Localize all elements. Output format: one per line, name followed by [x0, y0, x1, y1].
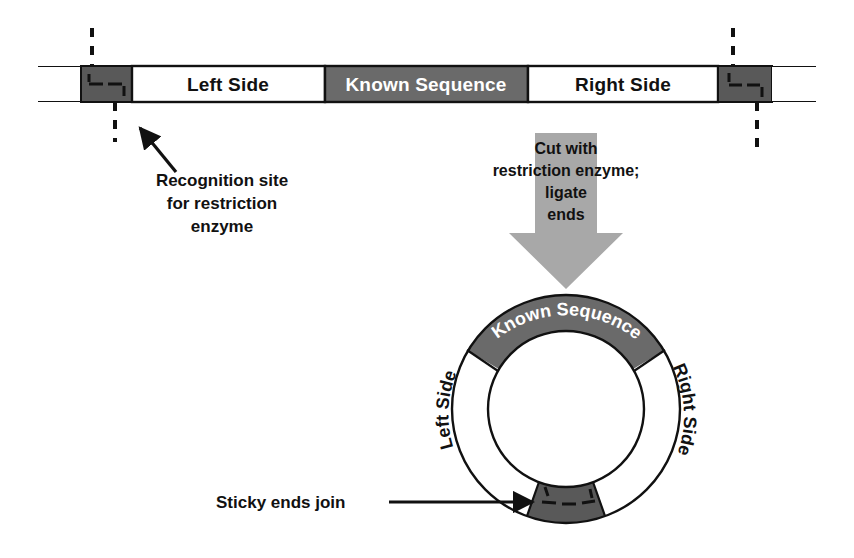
sticky-ends-annotation: Sticky ends join [216, 493, 533, 512]
sticky-ends-label: Sticky ends join [216, 493, 345, 512]
segment-flank-right [772, 67, 816, 101]
diagram-svg: Left Side Known Sequence Right Side [0, 0, 854, 558]
diagram-canvas: Left Side Known Sequence Right Side [0, 0, 854, 558]
recognition-site-pointer-arrow [140, 128, 176, 172]
process-arrow-line-1: Cut with [534, 140, 597, 157]
right-side-label: Right Side [575, 74, 671, 95]
left-side-label: Left Side [187, 74, 269, 95]
recognition-site-annotation-line-1: Recognition site [156, 171, 288, 190]
circular-dna-ring: Known Sequence Left Side Right Side [432, 293, 700, 523]
recognition-site-right-block [718, 66, 772, 102]
recognition-site-left-block [81, 66, 132, 102]
process-arrow: Cut with restriction enzyme; ligate ends [493, 133, 640, 289]
segment-right-side: Right Side [528, 66, 718, 102]
known-sequence-label: Known Sequence [345, 74, 506, 95]
recognition-site-annotation: Recognition site for restriction enzyme [140, 128, 288, 236]
process-arrow-line-3: ligate [545, 184, 587, 201]
process-arrow-line-4: ends [547, 206, 584, 223]
ring-inner-circle [488, 331, 644, 487]
process-arrow-line-2: restriction enzyme; [493, 162, 640, 179]
segment-recognition-left [81, 66, 132, 102]
recognition-site-annotation-line-2: for restriction [167, 194, 278, 213]
segment-flank-left [38, 67, 81, 101]
ring-arc-sticky-joint-fill [527, 409, 605, 523]
segment-left-side: Left Side [132, 66, 325, 102]
recognition-site-annotation-line-3: enzyme [191, 217, 253, 236]
segment-known-sequence: Known Sequence [325, 66, 528, 102]
linear-dna-bar: Left Side Known Sequence Right Side [38, 28, 816, 150]
segment-recognition-right [718, 66, 772, 102]
